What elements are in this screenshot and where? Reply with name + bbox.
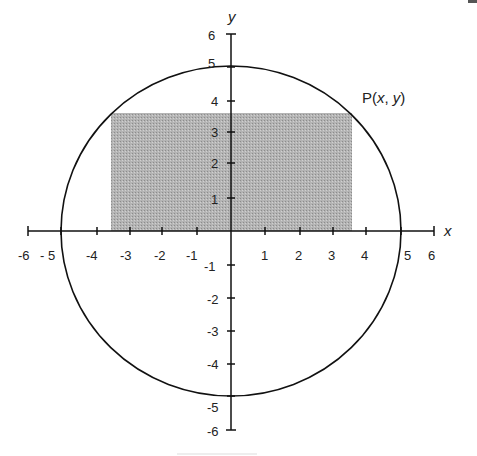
y-axis-label: y	[227, 8, 237, 25]
svg-text:2: 2	[211, 156, 218, 171]
svg-text:5: 5	[208, 56, 215, 71]
svg-text:6: 6	[428, 248, 435, 263]
svg-text:-2: -2	[154, 248, 166, 263]
point-label: P(x, y)	[362, 89, 405, 106]
svg-text:- 5: - 5	[40, 248, 55, 263]
x-axis-label: x	[443, 222, 452, 239]
svg-text:-4: -4	[86, 248, 98, 263]
svg-text:4: 4	[361, 248, 368, 263]
svg-text:-6: -6	[18, 248, 30, 263]
x-tick-labels: -6 - 5 -4 -3 -2 -1 1 2 3 4 5 6	[18, 248, 435, 263]
svg-text:3: 3	[328, 248, 335, 263]
coordinate-diagram: x y -6 - 5 -4 -3 -2 -1 1 2 3 4 5 6 6 5 4…	[0, 0, 477, 456]
svg-text:-4: -4	[207, 357, 219, 372]
svg-text:1: 1	[211, 192, 218, 207]
svg-text:-3: -3	[120, 248, 132, 263]
svg-text:2: 2	[295, 248, 302, 263]
svg-text:-1: -1	[186, 248, 198, 263]
svg-text:-5: -5	[207, 400, 219, 415]
svg-text:4: 4	[211, 94, 218, 109]
y-axis	[226, 34, 236, 430]
svg-text:6: 6	[208, 28, 215, 43]
svg-text:-3: -3	[207, 324, 219, 339]
svg-text:-2: -2	[207, 292, 219, 307]
svg-text:1: 1	[261, 248, 268, 263]
corner-mark	[468, 0, 477, 3]
svg-text:5: 5	[404, 248, 411, 263]
svg-text:-1: -1	[204, 259, 216, 274]
y-tick-labels: 6 5 4 3 2 1 -1 -2 -3 -4 -5 -6	[204, 28, 219, 439]
svg-text:-6: -6	[207, 424, 219, 439]
svg-text:3: 3	[211, 125, 218, 140]
